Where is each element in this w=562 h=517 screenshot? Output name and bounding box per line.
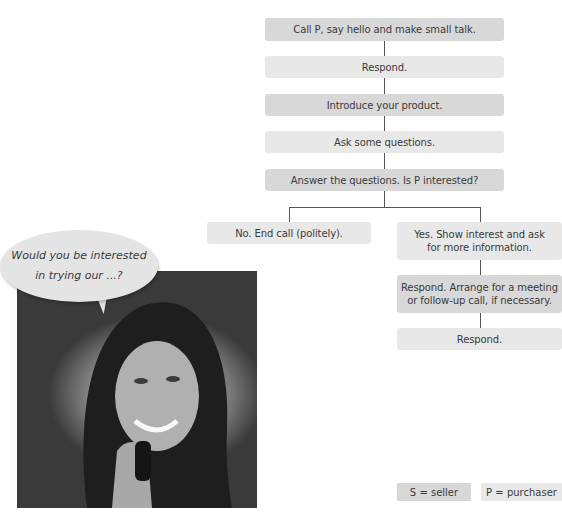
step-text: Respond.: [457, 333, 502, 346]
connector-line: [384, 41, 385, 56]
legend-purchaser: P = purchaser: [481, 483, 562, 501]
step-respond-final: Respond.: [397, 328, 562, 350]
speech-line1: Would you be interested: [11, 246, 146, 266]
legend-text: S = seller: [410, 487, 458, 498]
connector-line: [384, 116, 385, 131]
connector-line: [384, 153, 385, 169]
legend-text: P = purchaser: [486, 487, 557, 498]
step-arrange-meeting: Respond. Arrange for a meeting or follow…: [397, 275, 562, 313]
speech-bubble: Would you be interested in trying our ..…: [0, 230, 158, 302]
branch-line: [289, 207, 480, 208]
step-answer-questions: Answer the questions. Is P interested?: [265, 169, 504, 191]
photo-woman-on-phone: [17, 271, 257, 508]
legend-seller: S = seller: [397, 483, 471, 501]
connector-line: [289, 207, 290, 222]
step-text: No. End call (politely).: [235, 227, 343, 240]
connector-line: [480, 260, 481, 275]
step-call-p: Call P, say hello and make small talk.: [265, 18, 504, 41]
step-text: Call P, say hello and make small talk.: [293, 23, 475, 36]
branch-no-end-call: No. End call (politely).: [207, 222, 371, 244]
step-text-line1: Respond. Arrange for a meeting: [401, 281, 558, 294]
branch-yes-show-interest: Yes. Show interest and ask for more info…: [397, 222, 562, 260]
step-text: Ask some questions.: [334, 136, 435, 149]
step-text: Introduce your product.: [327, 99, 443, 112]
connector-line: [480, 313, 481, 328]
connector-line: [384, 78, 385, 94]
woman-figure-icon: [17, 271, 257, 508]
connector-line: [384, 191, 385, 207]
step-text-line2: for more information.: [427, 241, 532, 254]
step-text-line2: or follow-up call, if necessary.: [407, 294, 552, 307]
step-text: Answer the questions. Is P interested?: [291, 174, 478, 187]
step-respond-1: Respond.: [265, 56, 504, 78]
connector-line: [480, 207, 481, 222]
speech-line2: in trying our ...?: [35, 266, 122, 286]
step-text: Respond.: [362, 61, 407, 74]
step-text-line1: Yes. Show interest and ask: [414, 228, 545, 241]
step-introduce-product: Introduce your product.: [265, 94, 504, 116]
step-ask-questions: Ask some questions.: [265, 131, 504, 153]
